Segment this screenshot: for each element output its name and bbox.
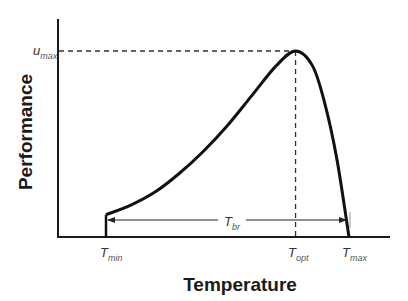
umax-sub: max (40, 51, 58, 61)
tmax-sub: max (350, 253, 368, 263)
topt-sub: opt (296, 253, 309, 263)
performance-curve (106, 51, 349, 237)
x-tick-tmin: Tmin (100, 245, 122, 263)
tbr-label: Tbr (224, 214, 241, 232)
y-axis-title: Performance (15, 74, 36, 190)
x-tick-tmax: Tmax (342, 245, 367, 263)
tmin-sub: min (108, 253, 123, 263)
y-tick-umax: umax (33, 43, 58, 61)
tbr-sub: br (232, 222, 241, 232)
thermal-performance-chart: Tbr umax Tmin Topt Tmax Temperature Perf… (0, 0, 408, 301)
x-tick-topt: Topt (288, 245, 309, 263)
umax-main: u (33, 43, 40, 58)
x-axis-title: Temperature (183, 274, 297, 295)
